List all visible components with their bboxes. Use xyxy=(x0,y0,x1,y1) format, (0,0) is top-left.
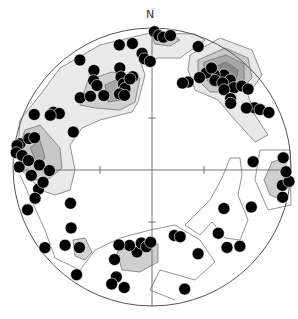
pole-point xyxy=(144,55,156,67)
pole-point xyxy=(221,241,233,253)
pole-point xyxy=(91,80,103,92)
pole-point xyxy=(192,248,204,260)
pole-point xyxy=(59,239,71,251)
pole-point xyxy=(25,169,37,181)
pole-point xyxy=(74,54,86,66)
pole-point xyxy=(194,72,206,84)
pole-point xyxy=(71,269,83,281)
pole-point xyxy=(106,278,118,290)
pole-point xyxy=(247,156,259,168)
pole-point xyxy=(119,89,131,101)
pole-point xyxy=(44,109,56,121)
pole-point xyxy=(165,30,177,42)
pole-point xyxy=(242,83,254,95)
pole-point xyxy=(177,77,189,89)
pole-point xyxy=(245,201,257,213)
pole-point xyxy=(43,165,55,177)
pole-point xyxy=(29,132,41,144)
pole-point xyxy=(65,222,77,234)
pole-point xyxy=(67,126,79,138)
pole-point xyxy=(118,282,130,294)
pole-point xyxy=(109,254,121,266)
pole-point xyxy=(280,166,292,178)
pole-point xyxy=(22,204,34,216)
pole-point xyxy=(73,242,85,254)
pole-point xyxy=(39,242,51,254)
pole-point xyxy=(192,41,204,53)
pole-point xyxy=(277,152,289,164)
pole-point xyxy=(206,62,218,74)
pole-point xyxy=(124,73,136,85)
pole-point xyxy=(218,203,230,215)
stereonet-plot xyxy=(0,0,298,319)
pole-point xyxy=(240,102,252,114)
pole-point xyxy=(225,97,237,109)
pole-point xyxy=(29,192,41,204)
pole-point xyxy=(263,107,275,119)
pole-point xyxy=(28,109,40,121)
pole-point xyxy=(179,283,191,295)
pole-point xyxy=(113,239,125,251)
pole-point xyxy=(37,176,49,188)
pole-point xyxy=(277,191,289,203)
pole-point xyxy=(85,90,97,102)
pole-point xyxy=(174,231,186,243)
pole-point xyxy=(124,239,136,251)
pole-point xyxy=(145,236,157,248)
pole-point xyxy=(113,39,125,51)
pole-point xyxy=(98,90,110,102)
north-label: N xyxy=(146,8,154,21)
pole-point xyxy=(23,155,35,167)
pole-point xyxy=(65,197,77,209)
pole-point xyxy=(126,38,138,50)
pole-point xyxy=(212,227,224,239)
pole-point xyxy=(234,240,246,252)
